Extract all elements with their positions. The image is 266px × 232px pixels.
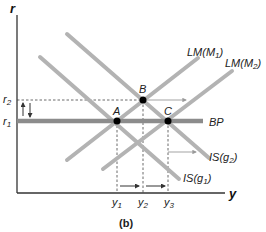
point-c-label: C (164, 105, 172, 117)
is-g2-label: IS(g2) (209, 151, 238, 165)
y3-label: y3 (163, 196, 175, 210)
lm-m2-label: LM(M2) (225, 57, 262, 71)
point-a-label: A (112, 105, 120, 117)
is-lm-bp-diagram: r y A B C LM(M1) LM(M2) BP IS(g2) IS(g1)… (0, 0, 266, 232)
is-g1-label: IS(g1) (183, 172, 212, 186)
point-b (140, 97, 147, 104)
point-a (114, 118, 121, 125)
is-g1-curve (40, 57, 179, 179)
r2-label: r2 (3, 93, 12, 107)
point-c (165, 118, 172, 125)
point-b-label: B (139, 83, 146, 95)
figure-caption: (b) (119, 217, 133, 229)
bp-label: BP (209, 116, 224, 128)
lm-m1-label: LM(M1) (187, 46, 224, 60)
y1-label: y1 (111, 196, 122, 210)
y-axis-label: y (228, 186, 237, 201)
r-axis-label: r (10, 1, 16, 16)
y2-label: y2 (137, 196, 149, 210)
r1-label: r1 (3, 115, 11, 129)
